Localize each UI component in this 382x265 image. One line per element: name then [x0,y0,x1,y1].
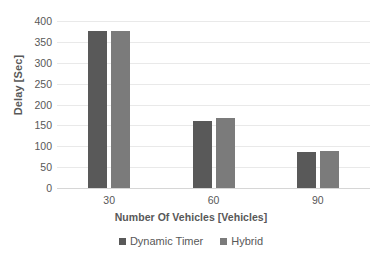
y-tick-label-200: 200 [22,100,52,110]
legend-label-dynamic-timer: Dynamic Timer [130,235,203,247]
x-tick-label-30: 30 [79,193,139,207]
y-tick-label-400: 400 [22,16,52,26]
y-tick-label-250: 250 [22,79,52,89]
y-tick-label-350: 350 [22,37,52,47]
plot-area [57,21,370,188]
bar-dynamic-timer-30[interactable] [88,31,107,188]
x-tick-label-90: 90 [288,193,348,207]
x-axis-tick-labels: 306090 [57,193,370,209]
legend-item-dynamic-timer[interactable]: Dynamic Timer [119,235,203,247]
legend-swatch-hybrid [220,238,227,245]
bar-hybrid-60[interactable] [216,118,235,188]
legend-swatch-dynamic-timer [119,238,126,245]
bar-chart-figure: Delay [Sec] 050100150200250300350400 306… [0,0,382,265]
y-tick-label-300: 300 [22,58,52,68]
legend-item-hybrid[interactable]: Hybrid [220,235,263,247]
bar-group-30 [88,21,130,188]
y-tick-label-100: 100 [22,141,52,151]
chart-legend: Dynamic TimerHybrid [0,235,382,247]
x-tick-label-60: 60 [184,193,244,207]
y-axis-tick-labels: 050100150200250300350400 [22,21,52,188]
y-tick-label-50: 50 [22,162,52,172]
bar-dynamic-timer-90[interactable] [297,152,316,188]
y-tick-label-0: 0 [22,183,52,193]
legend-label-hybrid: Hybrid [231,235,263,247]
bar-dynamic-timer-60[interactable] [193,121,212,188]
bar-group-90 [297,21,339,188]
y-tick-label-150: 150 [22,120,52,130]
bar-hybrid-30[interactable] [111,31,130,188]
gridline-0 [57,188,370,189]
x-axis-title: Number Of Vehicles [Vehicles] [0,211,382,223]
bar-hybrid-90[interactable] [320,151,339,188]
bar-group-60 [193,21,235,188]
bars-layer [57,21,370,188]
